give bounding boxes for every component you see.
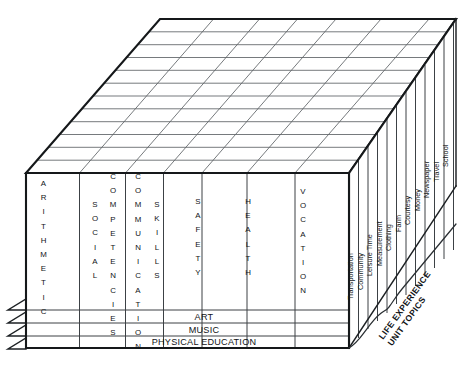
label-char: I	[137, 257, 139, 266]
label-char: C	[110, 286, 116, 295]
side-topic-label: Farm	[394, 215, 403, 232]
label-char: N	[300, 286, 306, 295]
side-topic-label: School	[441, 144, 450, 167]
label-char: T	[196, 254, 201, 263]
band-label-music: MUSIC	[189, 325, 220, 335]
side-topic-label: Newspaper	[422, 161, 431, 198]
label-char: E	[110, 314, 115, 323]
label-char: I	[42, 293, 44, 302]
side-topic-school: School	[441, 144, 450, 167]
label-char: M	[135, 200, 142, 209]
label-char: I	[156, 228, 158, 237]
label-char: N	[110, 271, 116, 280]
label-char: L	[93, 271, 98, 280]
label-char: M	[40, 250, 47, 259]
side-topic-label: Transportation	[346, 253, 355, 300]
side-topic-travel: Travel	[432, 162, 441, 182]
side-topic-label: Courtesy	[403, 195, 412, 225]
label-char: E	[245, 211, 250, 220]
side-topic-label: Travel	[432, 162, 441, 182]
side-topic-label: Clothing	[384, 224, 393, 251]
side-topic-label: Measurement	[375, 221, 384, 266]
side-topic-label: Community	[356, 253, 365, 290]
front-face	[26, 173, 349, 348]
label-char: H	[245, 197, 251, 206]
side-topic-farm: Farm	[394, 215, 403, 232]
label-char: T	[246, 254, 251, 263]
label-char: T	[136, 300, 141, 309]
label-char: C	[92, 228, 98, 237]
label-char: C	[41, 307, 47, 316]
label-char: H	[245, 268, 251, 277]
label-char: C	[135, 172, 141, 181]
label-char: N	[135, 243, 141, 252]
label-char: N	[135, 342, 141, 351]
label-char: A	[300, 230, 306, 239]
label-char: I	[42, 207, 44, 216]
label-char: S	[92, 200, 97, 209]
label-char: I	[94, 243, 96, 252]
label-char: C	[110, 172, 116, 181]
cube-svg: ARITHMETICSOCIALCOMPETENCIESCOMMUNICATIO…	[0, 0, 476, 367]
label-char: T	[111, 243, 116, 252]
label-char: M	[135, 215, 142, 224]
label-char: C	[135, 271, 141, 280]
label-char: I	[112, 300, 114, 309]
label-char: E	[110, 229, 115, 238]
side-topic-community: Community	[356, 253, 365, 290]
label-char: E	[195, 240, 200, 249]
label-char: Y	[195, 268, 201, 277]
label-char: L	[246, 240, 251, 249]
label-char: I	[302, 258, 304, 267]
label-char: T	[301, 244, 306, 253]
label-char: S	[195, 197, 200, 206]
label-char: O	[92, 214, 98, 223]
label-char: V	[300, 187, 306, 196]
label-char: T	[41, 222, 46, 231]
label-char: O	[135, 186, 141, 195]
label-char: A	[195, 211, 201, 220]
label-char: S	[110, 328, 115, 337]
side-topic-leisure-time: Leisure Time	[365, 234, 374, 276]
label-char: A	[41, 179, 47, 188]
label-char: A	[92, 257, 98, 266]
left-layer-tabs	[8, 299, 26, 349]
label-char: L	[155, 257, 160, 266]
label-char: E	[110, 257, 115, 266]
label-char: O	[135, 328, 141, 337]
side-topic-newspaper: Newspaper	[422, 161, 431, 198]
label-char: R	[41, 193, 47, 202]
label-char: I	[137, 314, 139, 323]
side-topic-label: Money	[413, 189, 422, 211]
curriculum-cube-diagram: ARITHMETICSOCIALCOMPETENCIESCOMMUNICATIO…	[0, 0, 476, 367]
label-char: K	[154, 214, 160, 223]
label-char: U	[135, 229, 141, 238]
label-char: S	[154, 200, 159, 209]
label-char: A	[135, 286, 141, 295]
label-char: O	[300, 201, 306, 210]
band-label-physical-education: PHYSICAL EDUCATION	[152, 337, 257, 347]
label-char: L	[155, 243, 160, 252]
label-char: A	[245, 225, 251, 234]
side-topic-money: Money	[413, 189, 422, 211]
side-topic-transportation: Transportation	[346, 253, 355, 300]
side-topic-label: Leisure Time	[365, 234, 374, 276]
label-char: F	[196, 225, 201, 234]
label-char: T	[41, 278, 46, 287]
label-char: O	[110, 186, 116, 195]
label-char: O	[300, 272, 306, 281]
label-char: S	[154, 271, 159, 280]
side-topic-clothing: Clothing	[384, 224, 393, 251]
band-label-art: ART	[195, 312, 214, 322]
label-char: E	[41, 264, 46, 273]
label-char: P	[110, 215, 115, 224]
side-topic-courtesy: Courtesy	[403, 195, 412, 225]
label-char: M	[110, 200, 117, 209]
label-char: C	[300, 215, 306, 224]
label-char: H	[41, 236, 47, 245]
side-topic-measurement: Measurement	[375, 221, 384, 266]
